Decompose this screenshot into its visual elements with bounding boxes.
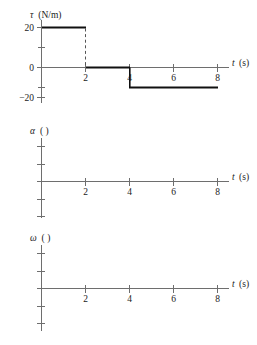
torque-plot-xlabel-4: 4 (127, 73, 132, 83)
torque-plot-x-axis-title: t (s) (232, 58, 249, 69)
omega-plot-y-units: ( ) (42, 233, 51, 244)
omega-plot-y-symbol: ω (30, 233, 37, 243)
omega-plot: 2 4 6 8 ω ( ) t (s) (0, 225, 257, 345)
torque-plot: 20 0 −20 2 4 6 8 τ (N/m) t (s) (0, 0, 257, 120)
torque-plot-x-units: (s) (239, 58, 249, 69)
omega-plot-xlabel-2: 2 (83, 294, 88, 304)
omega-plot-xlabel-8: 8 (215, 294, 220, 304)
alpha-plot-x-units: (s) (239, 172, 249, 183)
alpha-plot-xlabel-6: 6 (171, 187, 176, 197)
alpha-plot-xlabel-4: 4 (127, 187, 132, 197)
torque-plot-xlabel-8: 8 (215, 73, 220, 83)
omega-plot-x-units: (s) (239, 279, 249, 290)
alpha-plot: 2 4 6 8 α ( ) t (s) (0, 118, 257, 228)
omega-plot-y-axis-title: ω ( ) (30, 233, 50, 244)
omega-plot-xlabel-4: 4 (127, 294, 132, 304)
figure-container: 20 0 −20 2 4 6 8 τ (N/m) t (s) (0, 0, 257, 345)
torque-plot-ylabel-neg20: −20 (19, 93, 34, 103)
alpha-plot-y-symbol: α (30, 126, 36, 136)
torque-plot-xlabel-2: 2 (83, 73, 88, 83)
torque-plot-ylabel-0: 0 (29, 63, 34, 73)
omega-plot-x-axis-title: t (s) (232, 279, 249, 290)
alpha-plot-xlabel-2: 2 (83, 187, 88, 197)
alpha-plot-xlabel-8: 8 (215, 187, 220, 197)
omega-plot-xlabel-6: 6 (171, 294, 176, 304)
torque-plot-y-units: (N/m) (38, 10, 61, 21)
torque-plot-ylabel-20: 20 (25, 23, 35, 33)
alpha-plot-x-axis-title: t (s) (232, 172, 249, 183)
torque-plot-x-symbol: t (232, 58, 235, 68)
alpha-plot-y-units: ( ) (40, 126, 49, 137)
omega-plot-x-symbol: t (232, 279, 235, 289)
torque-plot-y-axis-title: τ (N/m) (30, 10, 62, 21)
alpha-plot-x-symbol: t (232, 172, 235, 182)
alpha-plot-y-axis-title: α ( ) (30, 126, 49, 137)
torque-plot-xlabel-6: 6 (171, 73, 176, 83)
torque-plot-y-symbol: τ (30, 10, 34, 20)
